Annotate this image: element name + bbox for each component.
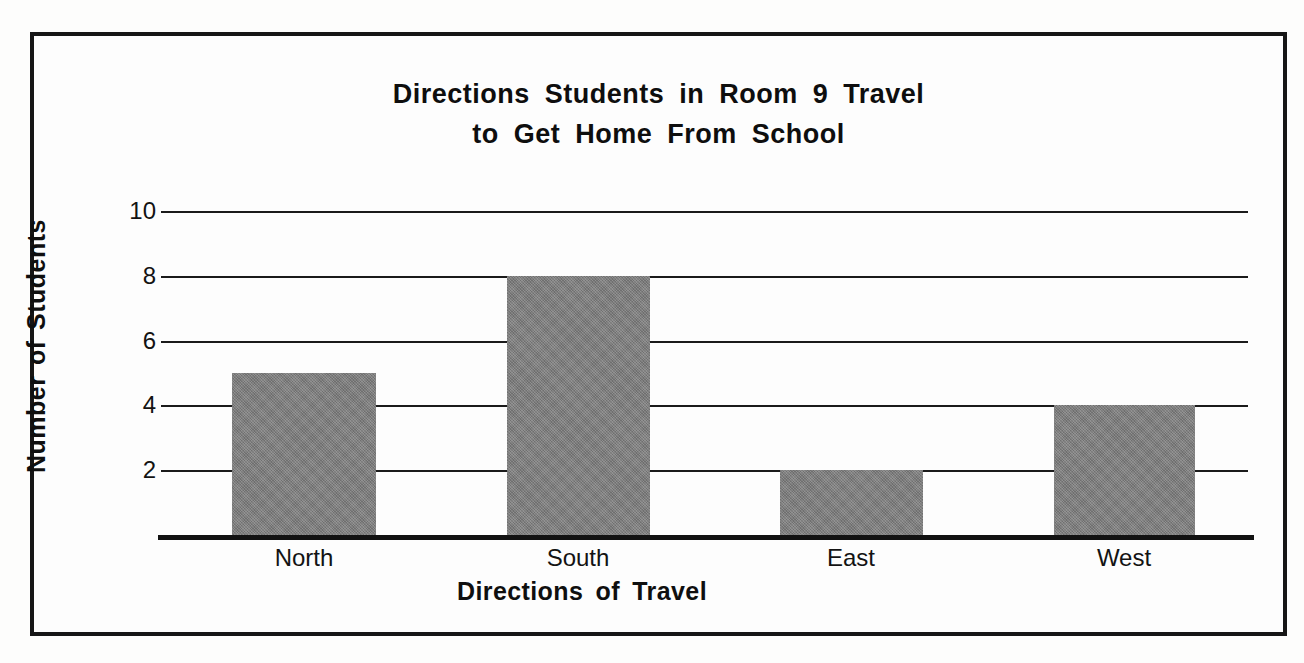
x-axis-baseline	[158, 535, 1254, 540]
chart-title-line-1: Directions Students in Room 9 Travel	[34, 74, 1283, 114]
gridline-6	[161, 341, 1248, 343]
y-tick-label: 6	[96, 329, 156, 353]
x-axis-title: Directions of Travel	[34, 577, 1130, 606]
bar-south	[507, 276, 650, 535]
scanned-page: Directions Students in Room 9 Travel to …	[0, 0, 1304, 663]
gridline-8	[161, 276, 1248, 278]
x-axis-tick-labels: North South East West	[161, 543, 1248, 575]
x-tick-label-west: West	[1097, 543, 1151, 573]
gridline-10	[161, 211, 1248, 213]
chart-title: Directions Students in Room 9 Travel to …	[34, 74, 1283, 154]
x-tick-label-south: South	[547, 543, 610, 573]
bar-east	[780, 470, 923, 535]
y-axis-tick-labels: 2 4 6 8 10	[96, 211, 156, 535]
bar-west	[1054, 405, 1195, 535]
x-tick-label-north: North	[275, 543, 334, 573]
chart-frame: Directions Students in Room 9 Travel to …	[30, 32, 1287, 636]
y-axis-title: Number of Students	[22, 184, 56, 508]
chart-title-line-2: to Get Home From School	[34, 114, 1283, 154]
bar-north	[232, 373, 376, 535]
y-tick-label: 2	[96, 458, 156, 482]
y-tick-label: 4	[96, 393, 156, 417]
x-tick-label-east: East	[827, 543, 875, 573]
y-tick-label: 8	[96, 264, 156, 288]
y-tick-label: 10	[96, 199, 156, 223]
plot-area	[161, 211, 1248, 535]
